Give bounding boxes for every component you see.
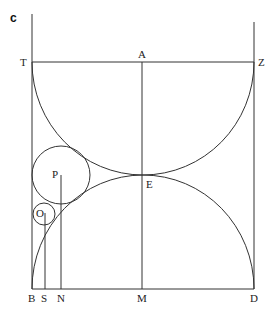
panel-label: c [10,11,17,25]
geometry-diagram: c T A Z E P O B S N M D [0,0,270,310]
label-B: B [28,292,35,304]
label-M: M [137,292,147,304]
label-A: A [138,48,146,60]
diagram-container: c T A Z E P O B S N M D [0,0,270,310]
label-N: N [57,292,65,304]
lower-arc-BED [32,175,254,289]
label-S: S [41,292,47,304]
label-E: E [146,178,153,190]
label-O: O [36,207,44,219]
label-T: T [20,56,27,68]
label-P: P [52,168,58,180]
label-D: D [250,292,258,304]
upper-arc-TEZ [32,62,254,175]
label-Z: Z [258,56,265,68]
